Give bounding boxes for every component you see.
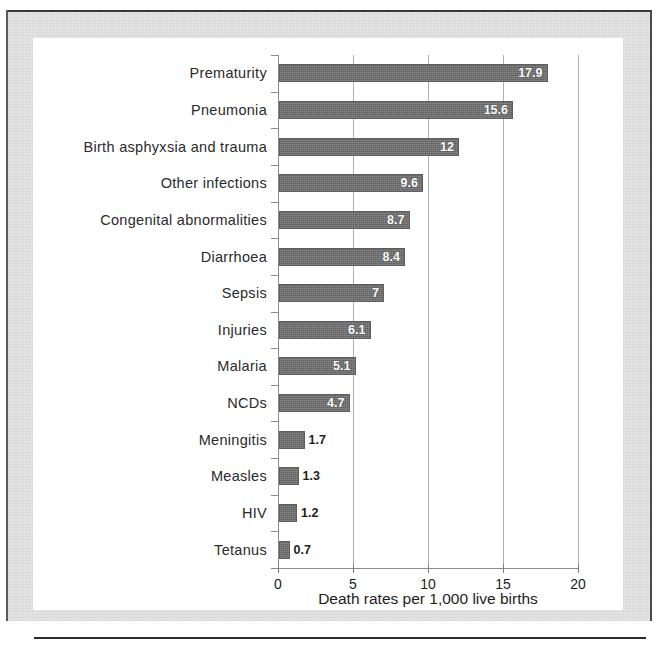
y-tick [271,238,278,239]
x-tick-20 [578,564,579,573]
y-tick [271,275,278,276]
bar-value-label: 0.7 [294,543,311,557]
bar-row: Other infections9.6 [278,174,578,192]
bar-row: Malaria5.1 [278,357,578,375]
y-tick [271,55,278,56]
y-tick [271,421,278,422]
x-tick-0 [278,564,279,573]
category-label: Malaria [217,358,267,374]
bar-value-label: 6.1 [348,323,365,337]
y-tick [271,202,278,203]
y-tick [271,531,278,532]
y-axis-line [278,55,279,568]
category-label: Congenital abnormalities [100,212,267,228]
bar-row: Pneumonia15.6 [278,101,578,119]
bar-row: Tetanus0.7 [278,541,578,559]
bar [279,138,459,156]
bar [279,504,297,522]
chart-page: 05101520 Prematurity17.9Pneumonia15.6Bir… [0,0,660,649]
x-tick-10 [428,564,429,573]
bar-row: Diarrhoea8.4 [278,248,578,266]
bar-value-label: 5.1 [333,359,350,373]
category-label: Measles [211,468,267,484]
bar-value-label: 1.3 [303,469,320,483]
bar [279,284,384,302]
bar-row: Meningitis1.7 [278,431,578,449]
y-tick [271,128,278,129]
y-tick [271,458,278,459]
bar-row: HIV1.2 [278,504,578,522]
bar-row: Prematurity17.9 [278,64,578,82]
bar-value-label: 8.4 [383,250,400,264]
bar-value-label: 17.9 [518,66,542,80]
gridline-15 [503,55,504,568]
bar-row: Injuries6.1 [278,321,578,339]
bar-value-label: 1.7 [309,433,326,447]
x-axis-title: Death rates per 1,000 live births [278,590,578,608]
gridline-5 [353,55,354,568]
gridline-10 [428,55,429,568]
bar-value-label: 15.6 [484,103,508,117]
plot-area: 05101520 Prematurity17.9Pneumonia15.6Bir… [278,55,578,568]
bar [279,101,513,119]
bar-row: Measles1.3 [278,467,578,485]
category-label: NCDs [227,395,267,411]
category-label: HIV [242,505,267,521]
y-tick [271,495,278,496]
bar [279,431,305,449]
x-tick-5 [353,564,354,573]
bar-row: Sepsis7 [278,284,578,302]
bar-value-label: 4.7 [327,396,344,410]
y-tick [271,92,278,93]
category-label: Pneumonia [191,102,267,118]
category-label: Diarrhoea [201,249,267,265]
y-tick [271,312,278,313]
bar-row: NCDs4.7 [278,394,578,412]
y-tick [271,385,278,386]
category-label: Meningitis [199,432,267,448]
bar [279,467,299,485]
bar [279,64,548,82]
category-label: Sepsis [222,285,267,301]
y-tick [271,568,278,569]
y-tick [271,165,278,166]
bar [279,541,290,559]
bar-row: Birth asphyxsia and trauma12 [278,138,578,156]
category-label: Tetanus [214,542,267,558]
bar-value-label: 7 [372,286,379,300]
category-label: Prematurity [190,65,267,81]
bar-value-label: 1.2 [301,506,318,520]
category-label: Injuries [218,322,267,338]
category-label: Birth asphyxsia and trauma [84,139,268,155]
y-tick [271,348,278,349]
bar-row: Congenital abnormalities8.7 [278,211,578,229]
bar-value-label: 9.6 [401,176,418,190]
gridline-20 [578,55,579,568]
page-bottom-rule [34,637,646,639]
chart-canvas: 05101520 Prematurity17.9Pneumonia15.6Bir… [33,38,623,610]
category-label: Other infections [161,175,267,191]
x-tick-15 [503,564,504,573]
bar-value-label: 8.7 [387,213,404,227]
bar-value-label: 12 [440,140,454,154]
page-left-rule [6,10,8,621]
